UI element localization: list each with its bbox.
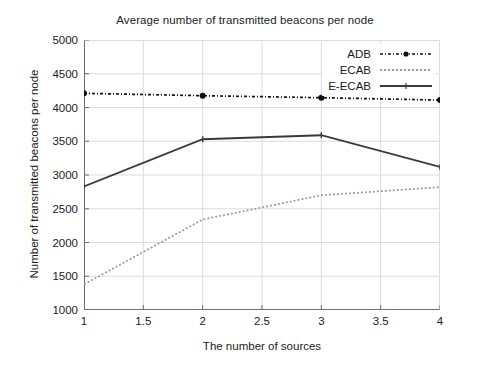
y-axis-label: Number of transmitted beacons per node (28, 34, 40, 314)
legend-item-ecab: ECAB (328, 62, 433, 78)
x-tick-label: 2 (199, 315, 205, 327)
y-tick-label: 2500 (52, 203, 78, 215)
legend-label-ecab: ECAB (340, 64, 371, 76)
legend-label-adb: ADB (347, 48, 371, 60)
y-tick-label: 3000 (52, 169, 78, 181)
x-tick-label: 1 (81, 315, 87, 327)
legend-item-adb: ADB (328, 46, 433, 62)
y-tick-label: 5000 (52, 34, 78, 46)
x-tick-label: 4 (437, 315, 443, 327)
x-tick-label: 3 (318, 315, 324, 327)
y-tick-label: 3500 (52, 135, 78, 147)
legend-swatch-ecab (379, 63, 433, 77)
legend-swatch-e-ecab (379, 79, 433, 93)
y-tick-label: 4000 (52, 102, 78, 114)
data-point-adb (84, 90, 87, 96)
chart-legend: ADB ECAB E-ECAB (322, 44, 436, 96)
chart-title: Average number of transmitted beacons pe… (0, 14, 490, 26)
y-tick-label: 2000 (52, 237, 78, 249)
x-axis-label: The number of sources (84, 340, 440, 352)
y-tick-label: 1000 (52, 304, 78, 316)
data-point-adb (437, 97, 440, 103)
legend-item-e-ecab: E-ECAB (328, 78, 433, 94)
legend-label-e-ecab: E-ECAB (328, 80, 371, 92)
y-tick-label: 1500 (52, 270, 78, 282)
data-point-adb (200, 93, 206, 99)
x-tick-label: 1.5 (135, 315, 151, 327)
x-tick-label: 2.5 (254, 315, 270, 327)
x-tick-label: 3.5 (373, 315, 389, 327)
legend-swatch-adb (379, 47, 433, 61)
y-tick-label: 4500 (52, 68, 78, 80)
plot-area: 100015002000250030003500400045005000 11.… (84, 40, 440, 310)
chart-figure: Average number of transmitted beacons pe… (0, 0, 490, 368)
